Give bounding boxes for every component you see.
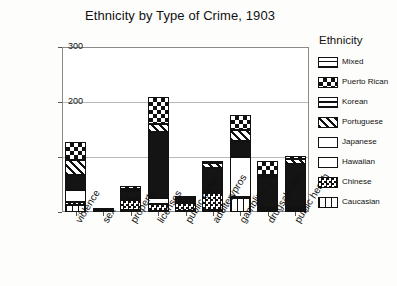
swatch-hawaiian-icon [318,157,338,168]
x-axis-tick-label-violence: violence [73,188,102,225]
legend-item-label: Mixed [342,58,363,66]
legend-item-label: Korean [342,98,368,106]
legend-item-mixed[interactable]: Mixed [318,53,396,71]
swatch-caucasian-icon [318,197,338,208]
swatch-korean-icon [318,97,338,108]
x-axis-tick-label-gambling: gambling [237,185,268,225]
legend-title: Ethnicity [319,34,396,46]
x-axis-tick-label-licenses: licenses [155,188,183,224]
legend-item-korean[interactable]: Korean [318,93,396,111]
legend-item-puerto-rican[interactable]: Puerto Rican [318,73,396,91]
legend-item-portuguese[interactable]: Portuguese [318,113,396,131]
swatch-puerto-rican-icon [318,77,338,88]
legend-item-label: Portuguese [342,118,383,126]
legend-item-japanese[interactable]: Japanese [318,133,396,151]
legend-item-chinese[interactable]: Chinese [318,173,396,191]
legend-item-label: Japanese [342,138,377,146]
swatch-mixed-icon [318,57,338,68]
swatch-portuguese-icon [318,117,338,128]
legend-item-label: Hawaiian [342,158,375,166]
x-axis-tick-label-property: property [128,188,157,225]
legend-item-label: Puerto Rican [342,78,388,86]
legend-item-label: Chinese [342,178,371,186]
legend-item-label: Caucasian [342,198,380,206]
swatch-chinese-icon [318,177,338,188]
chart-figure: Ethnicity by Type of Crime, 1903 0100200… [0,0,397,286]
x-axis-tick-label-sex: sex [100,206,118,225]
legend: Ethnicity MixedPuerto RicanKoreanPortugu… [318,34,396,213]
legend-item-caucasian[interactable]: Caucasian [318,193,396,211]
swatch-japanese-icon [318,137,338,148]
legend-item-hawaiian[interactable]: Hawaiian [318,153,396,171]
